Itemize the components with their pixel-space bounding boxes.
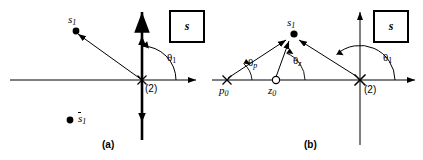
panel-a-point-s1-conjugate — [67, 117, 74, 124]
panel-b-label-theta-p: θp — [248, 57, 257, 70]
panel-b-label-theta-1: θ1 — [383, 52, 392, 65]
panel-b-point-s1 — [290, 30, 297, 37]
panel-a-locus-arrow-down — [138, 113, 146, 122]
panel-a-s-plane-box: s — [169, 10, 205, 43]
figure-vector-layer — [0, 0, 423, 160]
panel-b-zero-z0-circle-icon — [272, 76, 279, 83]
panel-b-vector-origin-to-s1 — [299, 40, 356, 76]
panel-b-label-origin-multiplicity: (2) — [364, 85, 376, 95]
panel-a-label-theta-1: θ1 — [167, 52, 176, 65]
panel-b-s-plane-box: s — [373, 10, 409, 43]
panel-a-label-origin-multiplicity: (2) — [145, 84, 157, 94]
figure-root-locus-angles: s1 s1 θ1 (2) s (a) s1 p0 z0 θp θz θ1 (2)… — [0, 0, 423, 160]
panel-b-caption: (b) — [304, 140, 317, 150]
panel-b-label-z0: z0 — [268, 85, 276, 98]
panel-b-vector-z0-to-s1 — [276, 41, 289, 77]
panel-a-caption: (a) — [102, 140, 114, 150]
panel-a-point-s1 — [73, 28, 80, 35]
panel-b-label-theta-z: θz — [293, 55, 301, 68]
panel-a-label-s1-conjugate: s1 — [78, 113, 86, 126]
panel-a-label-s1: s1 — [68, 14, 76, 27]
panel-b-label-p0: p0 — [219, 85, 229, 98]
panel-b-s-plane-box-label: s — [389, 19, 394, 34]
panel-b-label-s1: s1 — [287, 17, 295, 30]
panel-a-vector-origin-to-s1 — [78, 34, 142, 80]
panel-a-s-plane-box-label: s — [185, 19, 190, 34]
